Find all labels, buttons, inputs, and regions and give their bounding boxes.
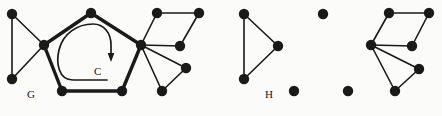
vertex-h-quad-top-left bbox=[384, 8, 394, 18]
vertex-g-bottom-left-pentagon bbox=[57, 86, 67, 96]
edge-g2-g3 bbox=[12, 45, 44, 79]
vertex-h-isolated-top bbox=[318, 9, 328, 19]
graph-figure: GCH bbox=[0, 0, 442, 116]
vertex-g-left-hub bbox=[39, 40, 49, 50]
vertex-g-triangle-bottom bbox=[157, 86, 167, 96]
cycle-c-label: C bbox=[94, 65, 101, 77]
vertex-h-isolated-bottom-right bbox=[343, 86, 353, 96]
vertex-g-quad-top-left bbox=[152, 8, 162, 18]
edge-g1-g3 bbox=[12, 14, 44, 45]
vertex-g-quad-top-right bbox=[194, 8, 204, 18]
vertex-g-bottom-right-pentagon bbox=[117, 86, 127, 96]
vertex-g-quad-bottom bbox=[175, 41, 185, 51]
edge-h2-h3 bbox=[244, 46, 278, 79]
vertex-h-quad-bottom bbox=[407, 41, 417, 51]
graph-canvas: GCH bbox=[0, 0, 442, 116]
vertex-h-triangle-bottom bbox=[239, 74, 249, 84]
vertex-h-triangle-right-node bbox=[414, 64, 424, 74]
subgraph-h-label: H bbox=[265, 88, 273, 100]
vertex-g-top-left bbox=[7, 9, 17, 19]
vertex-h-triangle-bottom-node bbox=[390, 86, 400, 96]
edge-h1-h3 bbox=[244, 14, 278, 46]
edge-h7-h8 bbox=[371, 13, 389, 45]
vertex-h-quad-top-right bbox=[424, 8, 434, 18]
cycle-edge-g3-g4 bbox=[44, 13, 91, 45]
cycle-arrow-layer bbox=[58, 24, 115, 80]
edge-g5-g10 bbox=[141, 45, 180, 46]
vertex-h-isolated-bottom-left bbox=[289, 86, 299, 96]
cycle-edge-g4-g5 bbox=[91, 13, 141, 45]
edge-h7-h10 bbox=[371, 45, 412, 46]
cycle-arrowhead-icon bbox=[108, 53, 115, 62]
vertex-g-right-hub bbox=[136, 40, 146, 50]
cycle-edge-g5-g6 bbox=[122, 45, 141, 91]
edge-g9-g10 bbox=[180, 13, 199, 46]
cycle-direction-arrow bbox=[58, 24, 111, 80]
edge-h7-h12 bbox=[371, 45, 395, 91]
vertex-g-triangle-right bbox=[181, 63, 191, 73]
graph-g-label: G bbox=[27, 88, 35, 100]
vertex-g-bottom-left bbox=[7, 74, 17, 84]
vertex-h-triangle-right bbox=[273, 41, 283, 51]
vertices-layer bbox=[7, 8, 434, 96]
vertex-h-right-hub bbox=[366, 40, 376, 50]
edge-g5-g8 bbox=[141, 13, 157, 45]
edge-g5-g12 bbox=[141, 45, 162, 91]
edge-h9-h10 bbox=[412, 13, 429, 46]
vertex-h-triangle-top bbox=[239, 9, 249, 19]
vertex-g-top-middle bbox=[86, 8, 96, 18]
